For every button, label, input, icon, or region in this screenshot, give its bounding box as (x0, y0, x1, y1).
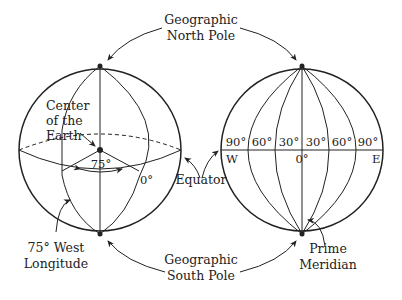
zero-label-left: 0° (140, 173, 153, 187)
prime-meridian-label-1: Prime (309, 241, 347, 256)
center-dot (97, 147, 103, 153)
meridian-label-e30: 30° (306, 135, 326, 149)
south-arrow-left (108, 241, 165, 272)
zero-label-right: 0° (295, 152, 308, 166)
longitude-diagram: Geographic North Pole Center of the Eart… (0, 0, 402, 300)
center-arrow (80, 133, 95, 146)
south-pole-label-2: South Pole (167, 268, 235, 283)
meridian-label-w30: 30° (279, 135, 299, 149)
south-arrow-right (240, 241, 296, 272)
west-meridian (62, 66, 100, 234)
west-longitude-label-2: Longitude (24, 256, 88, 271)
west-longitude-arrow (56, 200, 70, 232)
meridian-label-w60: 60° (252, 135, 272, 149)
meridian-label-e60: 60° (332, 135, 352, 149)
meridian-label-e90: 90° (358, 135, 378, 149)
center-label-1: Center (46, 98, 89, 113)
north-arrow-right (240, 28, 296, 60)
south-pole-dot-left (98, 232, 103, 237)
east-label: E (372, 152, 380, 166)
north-pole-label-2: North Pole (167, 28, 235, 43)
zero-meridian (100, 66, 149, 234)
west-longitude-label-1: 75° West (28, 240, 85, 255)
north-arrow-left (108, 28, 162, 60)
left-globe (19, 64, 181, 237)
angle-label: 75° (91, 157, 111, 171)
center-label-3: Earth (46, 128, 82, 143)
west-label: W (226, 152, 238, 166)
center-label-2: of the (46, 113, 83, 128)
south-pole-dot-right (300, 232, 305, 237)
north-pole-dot-left (98, 64, 103, 69)
north-pole-dot-right (300, 64, 305, 69)
prime-meridian-label-2: Meridian (299, 257, 357, 272)
equator-label: Equator (175, 172, 226, 187)
north-pole-label-1: Geographic (164, 12, 237, 27)
meridian-label-w90: 90° (226, 135, 246, 149)
south-pole-label-1: Geographic (164, 252, 237, 267)
